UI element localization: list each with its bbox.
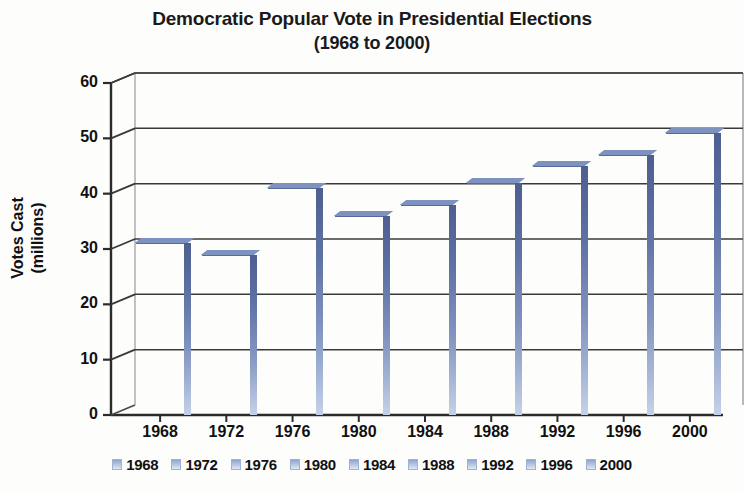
legend-item-1996: 1996 xyxy=(526,456,572,473)
legend-swatch-icon xyxy=(526,459,536,470)
bar-front-face xyxy=(467,183,515,415)
x-tick-label-1996: 1996 xyxy=(592,423,656,441)
bar-side-face xyxy=(184,243,191,415)
bar-1980 xyxy=(335,216,383,415)
legend-item-1980: 1980 xyxy=(290,456,336,473)
bar-side-face xyxy=(714,133,721,415)
legend-swatch-icon xyxy=(467,459,477,470)
legend-label: 1988 xyxy=(422,456,454,473)
bar-side-face xyxy=(316,188,323,415)
x-tick-label-1976: 1976 xyxy=(261,423,325,441)
x-tick-label-1992: 1992 xyxy=(525,423,589,441)
y-tick-label-50: 50 xyxy=(62,128,98,146)
legend-label: 1976 xyxy=(245,456,277,473)
bar-front-face xyxy=(335,216,383,415)
bar-side-face xyxy=(383,216,390,415)
legend-item-1988: 1988 xyxy=(408,456,454,473)
bar-front-face xyxy=(533,166,581,415)
bar-front-face xyxy=(268,188,316,415)
legend-item-1984: 1984 xyxy=(349,456,395,473)
x-tick-label-2000: 2000 xyxy=(658,423,722,441)
bar-1988 xyxy=(467,183,515,415)
bar-side-face xyxy=(581,166,588,415)
legend-label: 2000 xyxy=(600,456,632,473)
plot-area: 0102030405060 19681972197619801984198819… xyxy=(0,0,744,452)
legend-item-1992: 1992 xyxy=(467,456,513,473)
bar-1996 xyxy=(599,155,647,415)
bar-side-face xyxy=(647,155,654,415)
legend-item-2000: 2000 xyxy=(586,456,632,473)
x-tick-label-1972: 1972 xyxy=(194,423,258,441)
bar-front-face xyxy=(666,133,714,415)
y-tick-label-0: 0 xyxy=(62,405,98,423)
legend-item-1968: 1968 xyxy=(112,456,158,473)
legend-label: 1980 xyxy=(304,456,336,473)
legend-swatch-icon xyxy=(586,459,596,470)
legend-swatch-icon xyxy=(112,459,122,470)
bar-side-face xyxy=(250,255,257,415)
chart-legend: 196819721976198019841988199219962000 xyxy=(0,456,744,473)
bar-side-face xyxy=(515,183,522,415)
legend-label: 1992 xyxy=(481,456,513,473)
legend-swatch-icon xyxy=(349,459,359,470)
bar-side-face xyxy=(449,205,456,415)
legend-label: 1972 xyxy=(185,456,217,473)
y-tick-label-10: 10 xyxy=(62,350,98,368)
bar-front-face xyxy=(202,255,250,415)
x-tick-label-1968: 1968 xyxy=(128,423,192,441)
bar-front-face xyxy=(599,155,647,415)
bar-1992 xyxy=(533,166,581,415)
legend-item-1972: 1972 xyxy=(171,456,217,473)
y-tick-label-40: 40 xyxy=(62,184,98,202)
bar-1976 xyxy=(268,188,316,415)
x-tick-label-1980: 1980 xyxy=(327,423,391,441)
bar-front-face xyxy=(136,243,184,415)
y-tick-label-60: 60 xyxy=(62,73,98,91)
bar-1972 xyxy=(202,255,250,415)
bar-front-face xyxy=(401,205,449,415)
legend-swatch-icon xyxy=(231,459,241,470)
bar-1968 xyxy=(136,243,184,415)
legend-swatch-icon xyxy=(290,459,300,470)
x-tick-label-1984: 1984 xyxy=(393,423,457,441)
bar-1984 xyxy=(401,205,449,415)
legend-swatch-icon xyxy=(171,459,181,470)
legend-swatch-icon xyxy=(408,459,418,470)
legend-label: 1968 xyxy=(126,456,158,473)
chart-page: Democratic Popular Vote in Presidential … xyxy=(0,0,744,492)
legend-item-1976: 1976 xyxy=(231,456,277,473)
bar-2000 xyxy=(666,133,714,415)
x-tick-label-1988: 1988 xyxy=(459,423,523,441)
legend-label: 1996 xyxy=(540,456,572,473)
legend-label: 1984 xyxy=(363,456,395,473)
y-tick-label-20: 20 xyxy=(62,294,98,312)
y-tick-label-30: 30 xyxy=(62,239,98,257)
